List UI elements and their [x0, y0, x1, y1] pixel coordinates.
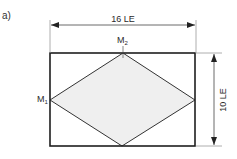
geometry-diagram: 16 LE 10 LE M2 M1 — [0, 0, 237, 159]
height-dimension-label: 10 LE — [218, 88, 228, 112]
rhombus — [50, 53, 195, 146]
m2-label: M2 — [117, 35, 129, 46]
m2-label-sub: 2 — [125, 40, 129, 46]
m1-label-base: M — [37, 94, 45, 104]
width-dimension-label: 16 LE — [111, 14, 135, 24]
m2-label-base: M — [117, 35, 125, 45]
m1-label-sub: 1 — [45, 99, 49, 105]
m1-label: M1 — [37, 94, 49, 105]
